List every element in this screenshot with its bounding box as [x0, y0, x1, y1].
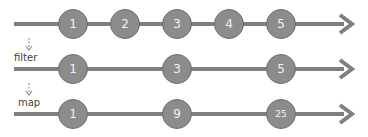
arrowhead-icon: [334, 57, 358, 81]
timeline-filtered: 1 3 5: [0, 52, 368, 86]
timeline-source: 1 2 3 4 5: [0, 7, 368, 41]
marble: 5: [266, 54, 296, 84]
arrowhead-icon: [334, 12, 358, 36]
marble: 4: [214, 9, 244, 39]
down-arrow-icon: [24, 83, 34, 97]
marble: 5: [266, 9, 296, 39]
marble: 25: [266, 99, 296, 129]
marble: 1: [58, 99, 88, 129]
marble: 1: [58, 9, 88, 39]
marble: 2: [110, 9, 140, 39]
down-arrow-icon: [24, 38, 34, 52]
marble: 3: [162, 9, 192, 39]
marble: 9: [162, 99, 192, 129]
marble: 3: [162, 54, 192, 84]
timeline-mapped: 1 9 25: [0, 97, 368, 131]
marble: 1: [58, 54, 88, 84]
arrowhead-icon: [334, 102, 358, 126]
